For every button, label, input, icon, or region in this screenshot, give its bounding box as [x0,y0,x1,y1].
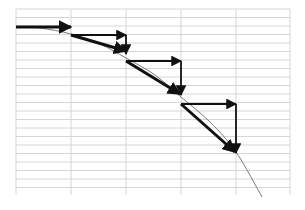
trajectory-curve [16,27,262,197]
diagram-canvas [0,0,305,210]
trajectory-diagram [0,0,305,210]
grid [16,9,290,195]
